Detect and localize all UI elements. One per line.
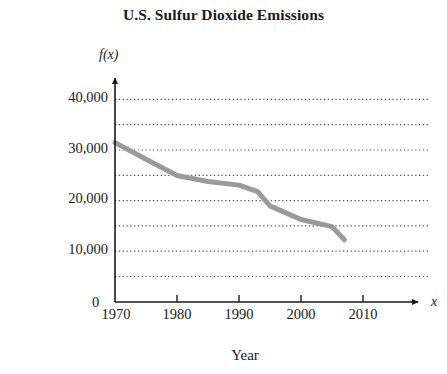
- axis-lines: [115, 78, 418, 302]
- y-axis-variable-label: f(x): [99, 47, 118, 63]
- x-axis-title: Year: [175, 347, 315, 364]
- x-axis-variable-label: x: [431, 294, 437, 310]
- x-axis-ticks: [177, 295, 363, 302]
- grid-lines: [115, 99, 428, 276]
- origin-zero-label: 0: [92, 294, 99, 311]
- plot-area: [0, 0, 447, 374]
- data-series-line: [115, 143, 344, 240]
- chart-figure: U.S. Sulfur Dioxide Emissions: [0, 0, 447, 374]
